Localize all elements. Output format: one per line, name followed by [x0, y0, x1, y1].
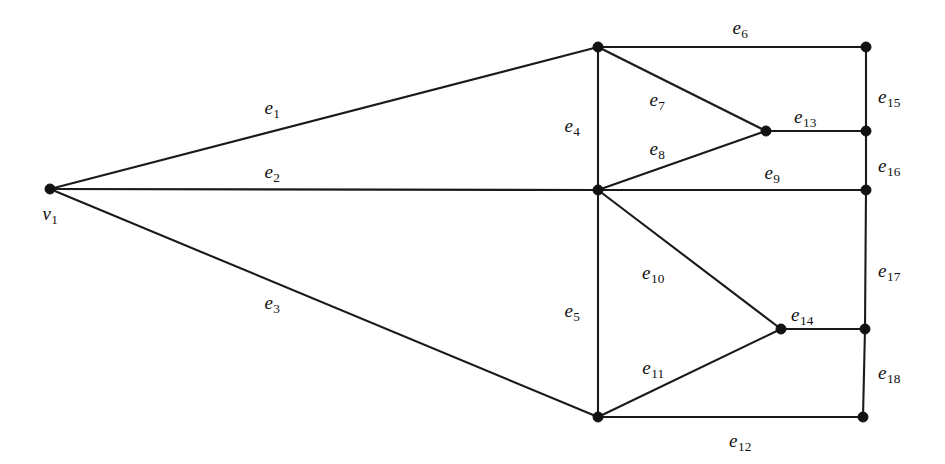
edge-label-subscript: 9 [773, 170, 780, 185]
edge-label-subscript: 3 [273, 300, 280, 315]
graph-edge-e18 [863, 329, 865, 417]
edge-label-base: e [649, 89, 658, 110]
graph-vertex-a [593, 42, 603, 52]
edge-label-base: e [649, 138, 658, 159]
graph-vertex-f [861, 42, 871, 52]
edge-label-e4: e4 [564, 116, 579, 135]
edge-label-base: e [794, 106, 803, 127]
graph-edge-e1 [50, 47, 598, 189]
edge-label-subscript: 14 [800, 312, 813, 327]
graph-figure: e1e2e3e4e5e6e7e8e9e10e11e12e13e14e15e16e… [0, 0, 945, 464]
graph-vertex-g [861, 126, 871, 136]
graph-edge-e17 [865, 190, 866, 329]
edge-label-base: e [564, 300, 573, 321]
vertex-label-base: v [42, 203, 50, 224]
edge-label-base: e [878, 155, 887, 176]
edge-label-e3: e3 [264, 293, 279, 312]
edge-label-e6: e6 [732, 18, 747, 37]
edge-label-base: e [878, 260, 887, 281]
edge-label-subscript: 8 [658, 146, 665, 161]
edge-label-subscript: 4 [573, 123, 580, 138]
edge-label-e1: e1 [264, 98, 279, 117]
graph-vertex-j [858, 412, 868, 422]
graph-vertex-h [861, 185, 871, 195]
edge-label-base: e [878, 362, 887, 383]
edge-label-base: e [764, 162, 773, 183]
edge-label-e5: e5 [564, 301, 579, 320]
vertices-group [45, 42, 871, 422]
edge-label-e2: e2 [264, 162, 279, 181]
vertex-label-subscript: 1 [51, 211, 58, 226]
edge-label-e10: e10 [642, 263, 664, 282]
graph-edge-e8 [598, 131, 766, 190]
edge-label-subscript: 16 [887, 163, 900, 178]
graph-vertex-d [761, 126, 771, 136]
edge-label-base: e [878, 86, 887, 107]
graph-vertex-i [860, 324, 870, 334]
graph-canvas [0, 0, 945, 464]
edge-label-subscript: 7 [658, 97, 665, 112]
edge-label-e18: e18 [878, 363, 900, 382]
edge-label-e9: e9 [764, 163, 779, 182]
edge-label-base: e [732, 17, 741, 38]
edges-group [50, 47, 866, 417]
edge-label-subscript: 15 [887, 94, 900, 109]
vertex-label-v1: v1 [42, 204, 57, 223]
edge-label-subscript: 11 [651, 365, 664, 380]
edge-label-subscript: 6 [741, 25, 748, 40]
graph-edge-e2 [50, 189, 598, 190]
edge-label-base: e [791, 304, 800, 325]
graph-edge-e10 [598, 190, 781, 329]
edge-label-e13: e13 [794, 107, 816, 126]
edge-label-e15: e15 [878, 87, 900, 106]
edge-label-base: e [642, 262, 651, 283]
edge-label-e12: e12 [729, 431, 751, 450]
graph-edge-e11 [598, 329, 781, 417]
edge-label-e7: e7 [649, 90, 664, 109]
edge-label-subscript: 2 [273, 169, 280, 184]
edge-label-subscript: 10 [651, 270, 664, 285]
graph-edge-e3 [50, 189, 598, 417]
edge-label-e11: e11 [642, 358, 663, 377]
edge-label-base: e [264, 161, 273, 182]
edge-label-base: e [564, 115, 573, 136]
graph-edge-e7 [598, 47, 766, 131]
edge-label-e16: e16 [878, 156, 900, 175]
edge-label-e14: e14 [791, 305, 813, 324]
edge-label-e17: e17 [878, 261, 900, 280]
edge-label-e8: e8 [649, 139, 664, 158]
edge-label-subscript: 1 [273, 105, 280, 120]
edge-label-base: e [264, 292, 273, 313]
edge-label-base: e [729, 430, 738, 451]
edge-label-subscript: 17 [887, 268, 900, 283]
graph-vertex-b [593, 185, 603, 195]
edge-label-subscript: 13 [803, 114, 816, 129]
edge-label-subscript: 12 [738, 438, 751, 453]
graph-vertex-c [593, 412, 603, 422]
edge-label-base: e [642, 357, 651, 378]
graph-vertex-e [776, 324, 786, 334]
edge-label-subscript: 18 [887, 370, 900, 385]
edge-label-subscript: 5 [573, 308, 580, 323]
edge-label-base: e [264, 97, 273, 118]
graph-vertex-v1 [45, 184, 55, 194]
